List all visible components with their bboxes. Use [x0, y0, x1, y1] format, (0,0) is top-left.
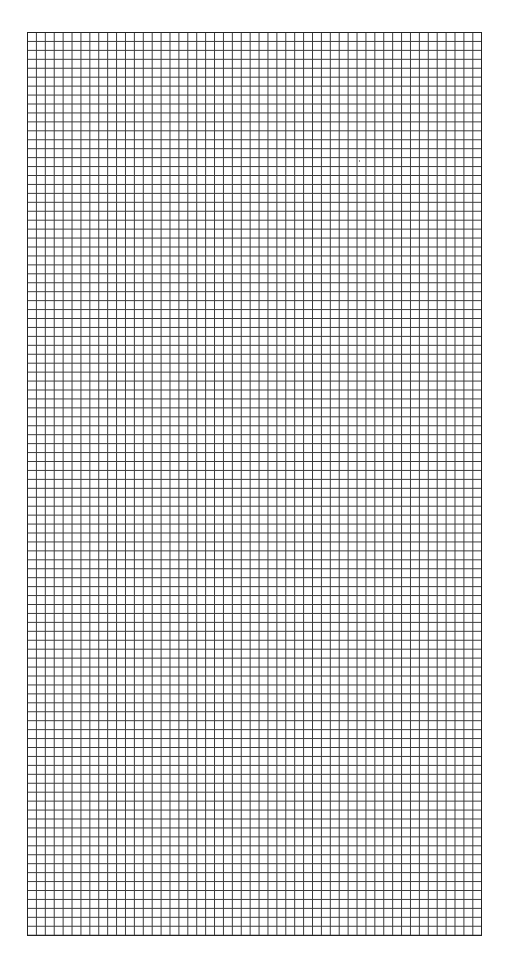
grid-paper: [27, 32, 482, 936]
speck-mark: [359, 160, 360, 162]
speck-mark: [170, 861, 171, 863]
